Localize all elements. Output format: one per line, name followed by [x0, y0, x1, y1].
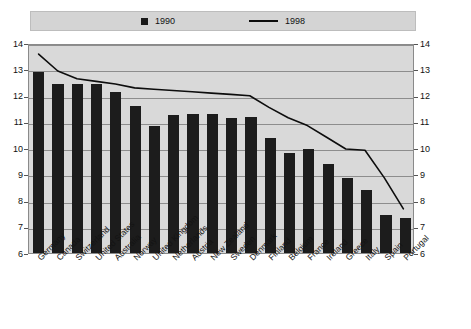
y-axis-tickmark	[414, 44, 418, 45]
y-axis-tickmark	[414, 202, 418, 203]
y-axis-tick-label: 13	[7, 66, 23, 75]
y-axis-tick-label: 11	[420, 118, 436, 127]
legend-label-1990: 1990	[155, 17, 175, 26]
y-axis-tick-label: 10	[420, 145, 436, 154]
y-axis-tick-label: 13	[420, 66, 436, 75]
y-axis-tick-label: 10	[7, 145, 23, 154]
y-axis-tickmark	[24, 254, 28, 255]
plot-area	[28, 44, 414, 254]
y-axis-tick-label: 9	[7, 171, 23, 180]
y-axis-tickmark	[24, 228, 28, 229]
y-axis-tickmark	[414, 228, 418, 229]
y-axis-tick-label: 12	[7, 92, 23, 101]
y-axis-tickmark	[24, 202, 28, 203]
y-axis-tick-label: 7	[420, 223, 436, 232]
y-axis-tickmark	[414, 97, 418, 98]
y-axis-tickmark	[24, 175, 28, 176]
y-axis-tickmark	[414, 123, 418, 124]
y-axis-tick-label: 14	[420, 40, 436, 49]
y-axis-tick-label: 7	[7, 223, 23, 232]
y-axis-tick-label: 14	[7, 40, 23, 49]
chart-legend: 1990 1998	[30, 11, 416, 31]
y-axis-tickmark	[24, 149, 28, 150]
y-axis-tickmark	[414, 254, 418, 255]
y-axis-tickmark	[24, 70, 28, 71]
y-axis-tickmark	[414, 70, 418, 71]
y-axis-tickmark	[24, 123, 28, 124]
y-axis-tick-label: 6	[7, 250, 23, 259]
line-path	[39, 54, 404, 209]
legend-item-1998: 1998	[249, 17, 305, 26]
y-axis-tickmark	[414, 149, 418, 150]
y-axis-tickmark	[24, 44, 28, 45]
y-axis-tickmark	[414, 175, 418, 176]
line-marker-icon	[249, 20, 278, 22]
line-series-1998	[29, 45, 413, 253]
y-axis-tick-label: 8	[7, 197, 23, 206]
legend-item-1990: 1990	[141, 17, 175, 26]
y-axis-tick-label: 9	[420, 171, 436, 180]
chart-figure: 1990 1998 GermanyCanadaSwitzerlandUnited…	[0, 0, 471, 329]
legend-label-1998: 1998	[285, 17, 305, 26]
y-axis-tick-label: 12	[420, 92, 436, 101]
y-axis-tick-label: 8	[420, 197, 436, 206]
y-axis-tick-label: 11	[7, 118, 23, 127]
y-axis-tickmark	[24, 97, 28, 98]
square-marker-icon	[141, 18, 148, 25]
line-series-svg	[29, 45, 413, 253]
x-axis-category-labels: GermanyCanadaSwitzerlandUnited StatesAus…	[28, 256, 414, 329]
y-axis-tick-label: 6	[420, 250, 436, 259]
